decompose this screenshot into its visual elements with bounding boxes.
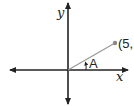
angle-label: A — [89, 56, 98, 71]
point-marker — [113, 41, 117, 45]
point-label: (5, — [118, 36, 133, 51]
angle-arc-icon — [86, 63, 87, 71]
x-axis-label: x — [116, 69, 124, 84]
y-axis-label: y — [56, 5, 65, 20]
coordinate-plane-diagram: y x A (5, — [0, 0, 134, 106]
